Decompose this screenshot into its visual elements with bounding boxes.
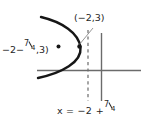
- equation-fraction: 74: [104, 104, 116, 114]
- focus-label-tail: ,3): [36, 44, 49, 55]
- directrix-equation-label: x = −2 +74: [57, 104, 116, 116]
- vertex-point-label: (−2,3): [74, 13, 104, 23]
- vertex-point-marker: [77, 44, 81, 48]
- focus-label-fraction: 74: [24, 43, 36, 53]
- focus-point-marker: [57, 45, 61, 49]
- equation-fraction-denominator: 4: [111, 106, 115, 113]
- figure-canvas: −2−74,3) (−2,3) x = −2 +74: [0, 0, 151, 123]
- equation-equals: =: [66, 105, 74, 116]
- focus-fraction-denominator: 4: [31, 45, 35, 52]
- focus-point-label: −2−74,3): [2, 43, 49, 55]
- equation-lhs: x: [57, 105, 63, 116]
- equation-value: −2 +: [77, 105, 104, 116]
- vertex-leader-line: [79, 28, 93, 45]
- focus-label-prefix: −2−: [2, 44, 24, 55]
